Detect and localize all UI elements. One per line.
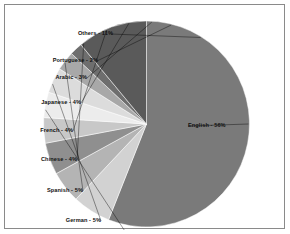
pie-label-arabic: Arabic - 3% (5, 75, 87, 81)
pie-chart-svg (5, 5, 286, 230)
pie-chart-plot-area: Others - 11% Portuguese - 2% Arabic - 3%… (5, 5, 286, 230)
pie-label-others: Others - 11% (13, 31, 113, 37)
pie-label-french: French - 4% (5, 128, 73, 134)
pie-label-japanese: Japanese - 4% (5, 100, 81, 106)
chart-frame: Others - 11% Portuguese - 2% Arabic - 3%… (4, 4, 285, 229)
pie-label-chinese: Chinese - 4% (5, 157, 77, 163)
pie-label-english: English - 56% (188, 123, 284, 129)
pie-label-german: German - 5% (21, 218, 101, 224)
pie-label-spanish: Spanish - 5% (5, 188, 83, 194)
pie-label-portuguese: Portuguese - 2% (5, 58, 98, 64)
